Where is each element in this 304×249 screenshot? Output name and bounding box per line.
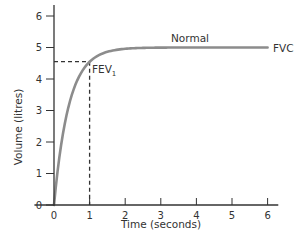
- x-tick-label: 6: [264, 210, 270, 221]
- spirometry-chart: 0123456 0123456 Time (seconds) Volume (l…: [0, 0, 304, 249]
- y-axis-ticks: 0123456: [36, 11, 54, 211]
- y-tick-label: 3: [36, 105, 42, 116]
- y-tick-label: 4: [36, 74, 42, 85]
- y-tick-label: 1: [36, 168, 42, 179]
- x-tick-label: 1: [86, 210, 92, 221]
- x-tick-label: 0: [51, 210, 57, 221]
- y-axis-title: Volume (litres): [12, 89, 24, 166]
- fvc-label: FVC: [273, 42, 294, 54]
- fev1-label: FEV1: [92, 63, 116, 78]
- y-tick-label: 5: [36, 42, 42, 53]
- y-tick-label: 0: [36, 200, 42, 211]
- x-axis-title: Time (seconds): [120, 218, 201, 230]
- axes: [34, 5, 278, 206]
- y-tick-label: 6: [36, 11, 42, 22]
- normal-volume-curve: [54, 48, 268, 206]
- y-tick-label: 2: [36, 137, 42, 148]
- x-tick-label: 5: [229, 210, 235, 221]
- normal-curve-label: Normal: [171, 32, 209, 44]
